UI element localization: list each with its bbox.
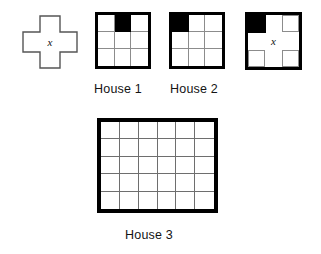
answer-corner-bottom-left (248, 50, 265, 67)
grid-cell (176, 122, 195, 139)
grid-cell (195, 139, 214, 156)
plus-piece-label: x (22, 15, 78, 69)
house3-caption: House 3 (125, 228, 173, 242)
grid-cell (120, 122, 139, 139)
grid-cell (131, 32, 148, 49)
grid-cell (120, 157, 139, 174)
figure-canvas: x x House 1 House 2 (0, 0, 321, 254)
grid-cell (101, 122, 120, 139)
answer-square: x (245, 12, 302, 70)
grid-cell (115, 32, 132, 49)
grid-cell (101, 157, 120, 174)
grid-cell (158, 139, 177, 156)
house2-caption: House 2 (170, 82, 218, 96)
grid-cell (176, 192, 195, 209)
grid-cell (131, 15, 148, 32)
answer-square-inner (248, 15, 299, 67)
house1-caption: House 1 (94, 82, 142, 96)
grid-cell (139, 139, 158, 156)
grid-cell (176, 157, 195, 174)
grid-cell (176, 139, 195, 156)
grid-cell (158, 192, 177, 209)
grid-cell (189, 15, 206, 32)
grid-cell (195, 174, 214, 191)
grid-cell (172, 49, 189, 66)
grid-cell (158, 122, 177, 139)
grid-cell (101, 174, 120, 191)
answer-corner-top-right (282, 15, 299, 32)
grid-cell (101, 139, 120, 156)
house1-grid (95, 12, 151, 69)
house2-grid (169, 12, 225, 69)
grid-cell (195, 192, 214, 209)
grid-cell (205, 49, 222, 66)
grid-cell (158, 157, 177, 174)
grid-cell (101, 192, 120, 209)
grid-cell (205, 32, 222, 49)
grid-cell (98, 15, 115, 32)
grid-cell-filled (172, 15, 189, 32)
grid-cell (120, 174, 139, 191)
grid-cell (98, 49, 115, 66)
grid-cell (158, 174, 177, 191)
grid-cell (189, 32, 206, 49)
grid-cell (176, 174, 195, 191)
grid-cell (205, 15, 222, 32)
grid-cell (195, 122, 214, 139)
grid-cell (115, 49, 132, 66)
answer-corner-bottom-right (282, 50, 299, 67)
plus-piece: x (22, 15, 78, 69)
grid-cell (189, 49, 206, 66)
grid-cell (195, 157, 214, 174)
grid-cell (131, 49, 148, 66)
answer-corner-top-left (248, 15, 266, 33)
grid-cell (120, 192, 139, 209)
grid-cell (139, 192, 158, 209)
grid-cell (120, 139, 139, 156)
grid-cell (98, 32, 115, 49)
grid-cell-filled (115, 15, 132, 32)
grid-cell (139, 122, 158, 139)
grid-cell (139, 174, 158, 191)
house3-grid (97, 118, 218, 213)
grid-cell (172, 32, 189, 49)
grid-cell (139, 157, 158, 174)
